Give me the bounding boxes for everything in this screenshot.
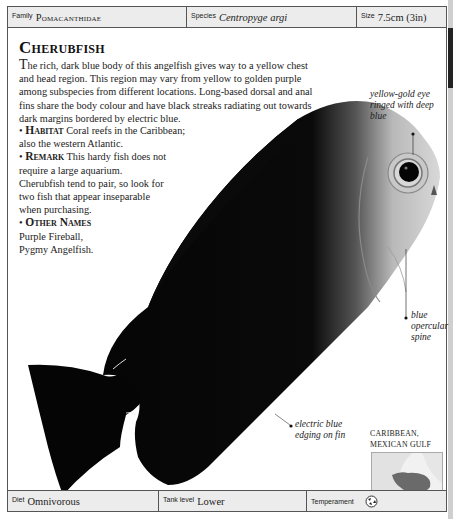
temperament-label: Temperament <box>311 498 354 505</box>
temperament-cell: Temperament <box>306 491 446 511</box>
fact-heading: Habitat <box>25 124 63 136</box>
diet-value: Omnivorous <box>27 496 80 507</box>
intro-text: he rich, dark blue body of this angelfis… <box>19 60 312 124</box>
semi-aggressive-icon <box>365 495 378 508</box>
size-value: 7.5cm (3in) <box>378 12 427 23</box>
adjacent-page-image <box>448 28 453 88</box>
family-cell: Family Pomacanthidae <box>8 7 186 27</box>
diet-cell: Diet Omnivorous <box>8 491 158 511</box>
annotation-spine: blue opercular spine <box>411 310 451 343</box>
species-cell: Species Centropyge argi <box>186 7 356 27</box>
annotation-fin: electric blue edging on fin <box>295 419 365 441</box>
fact-other-names: • Other Names Purple Fireball, Pygmy Ang… <box>19 216 99 256</box>
header-bar: Family Pomacanthidae Species Centropyge … <box>8 7 446 28</box>
size-label: Size <box>361 12 375 19</box>
species-label: Species <box>191 12 216 19</box>
fact-heading: Remark <box>25 150 64 162</box>
fact-text: Purple Fireball, Pygmy Angelfish. <box>19 231 93 255</box>
range-label-line1: CARIBBEAN, <box>370 428 431 439</box>
range-label-line2: MEXICAN GULF <box>370 439 431 450</box>
family-value: Pomacanthidae <box>36 12 102 23</box>
tank-level-value: Lower <box>197 496 224 507</box>
range-label: CARIBBEAN, MEXICAN GULF <box>370 428 431 450</box>
fish-profile-page: Family Pomacanthidae Species Centropyge … <box>7 6 447 512</box>
annotation-eye: yellow-gold eye ringed with deep blue <box>370 89 440 122</box>
tank-level-label: Tank level <box>163 496 194 503</box>
adjacent-page-edge <box>448 0 453 519</box>
species-value: Centropyge argi <box>219 12 287 23</box>
footer-bar: Diet Omnivorous Tank level Lower Tempera… <box>8 490 446 511</box>
fact-habitat: • Habitat Coral reefs in the Caribbean; … <box>19 124 189 150</box>
tank-level-cell: Tank level Lower <box>158 491 306 511</box>
facts-list: • Habitat Coral reefs in the Caribbean; … <box>19 124 189 256</box>
intro-paragraph: The rich, dark blue body of this angelfi… <box>19 59 319 125</box>
size-cell: Size 7.5cm (3in) <box>356 7 446 27</box>
drop-cap: T <box>19 57 28 72</box>
fact-remark: • Remark This hardy fish does not requir… <box>19 150 167 216</box>
family-label: Family <box>12 12 33 19</box>
species-title: Cherubfish <box>19 38 105 58</box>
fact-heading: Other Names <box>25 216 91 228</box>
diet-label: Diet <box>12 496 24 503</box>
